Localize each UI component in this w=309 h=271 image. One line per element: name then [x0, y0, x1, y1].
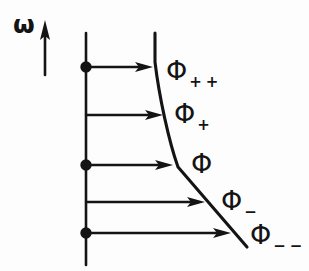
omega-axis-label: ω	[13, 12, 35, 37]
axis-node-dot-1	[80, 61, 91, 72]
phi-plus-label: Φ+	[174, 100, 214, 133]
phi-symbol: Φ	[191, 148, 212, 179]
phi-minus-minus-symbol: Φ	[250, 219, 271, 250]
axis-node-dot-2	[80, 159, 91, 170]
diagram-figure: ω Φ++ Φ+ Φ Φ− Φ−−	[0, 0, 309, 271]
phi-label: Φ	[191, 150, 214, 183]
axis-node-dot-3	[80, 227, 91, 238]
phi-plus-subscript: +	[197, 116, 214, 134]
phi-minus-label: Φ−	[221, 187, 261, 220]
phi-plus-plus-subscript: ++	[189, 73, 222, 91]
phi-minus-minus-label: Φ−−	[250, 221, 306, 254]
phi-plus-plus-symbol: Φ	[166, 55, 187, 86]
phi-plus-plus-label: Φ++	[166, 57, 222, 90]
phi-minus-minus-subscript: −−	[273, 237, 306, 255]
phi-minus-symbol: Φ	[221, 185, 242, 216]
phi-plus-symbol: Φ	[174, 98, 195, 129]
